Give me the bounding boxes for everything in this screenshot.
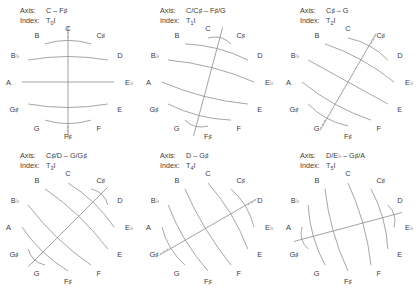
panel-t0i-figure: CC♯DE♭EFF♯GG♯AB♭B xyxy=(0,26,140,144)
pitch-class-label-G♯: G♯ xyxy=(290,105,300,114)
pitch-class-label-F♯: F♯ xyxy=(64,132,73,141)
pitch-class-label-C♯: C♯ xyxy=(377,31,386,40)
pitch-class-label-G♯: G♯ xyxy=(10,250,20,259)
panel-t4i-axis-value: D – G♯ xyxy=(186,151,208,161)
pitch-class-label-B: B xyxy=(35,31,40,40)
axis-label: Axis: xyxy=(300,6,326,16)
pitch-class-label-B: B xyxy=(175,31,180,40)
inversion-arc-G-A xyxy=(162,227,185,265)
pitch-class-label-B♭: B♭ xyxy=(11,196,19,205)
pitch-class-label-F: F xyxy=(377,269,382,278)
panel-t3i-axis-row: Axis:C♯/D – G/G♯ xyxy=(20,151,87,161)
pitch-class-label-G♯: G♯ xyxy=(150,250,160,259)
panel-t1i-figure: CC♯DE♭EFF♯GG♯AB♭B xyxy=(140,26,280,144)
pitch-class-label-D: D xyxy=(117,51,122,60)
pitch-class-label-D: D xyxy=(117,196,122,205)
pitch-class-label-F: F xyxy=(237,124,242,133)
pitch-class-label-E: E xyxy=(397,105,402,114)
index-suffix: I xyxy=(193,161,195,170)
index-suffix: I xyxy=(333,161,335,170)
index-subscript: 0 xyxy=(50,20,53,26)
pitch-class-label-A: A xyxy=(286,78,291,87)
pitch-class-label-F: F xyxy=(237,269,242,278)
pitch-class-label-G♯: G♯ xyxy=(290,250,300,259)
pitch-class-label-B: B xyxy=(175,176,180,185)
pitch-class-label-G: G xyxy=(314,124,320,133)
pitch-class-label-E♭: E♭ xyxy=(125,223,133,232)
pitch-class-label-F♯: F♯ xyxy=(64,277,73,286)
panel-t2i: Axis:C♯ – GIndex:T2ICC♯DE♭EFF♯GG♯AB♭B xyxy=(280,0,405,145)
panel-t5i-index-value: T5I xyxy=(326,161,335,171)
axis-label: Axis: xyxy=(20,6,46,16)
pitch-class-label-E♭: E♭ xyxy=(405,78,413,87)
pitch-class-label-C: C xyxy=(65,169,71,178)
pitch-class-label-C♯: C♯ xyxy=(97,31,106,40)
pitch-class-label-G: G xyxy=(314,269,320,278)
index-label: Index: xyxy=(20,16,46,26)
panel-t5i-axis-row: Axis:D/E♭ – G♯/A xyxy=(300,151,365,161)
pitch-class-label-B: B xyxy=(315,31,320,40)
pitch-class-label-F♯: F♯ xyxy=(344,132,353,141)
panel-t0i-index-row: Index:T0I xyxy=(20,16,67,26)
index-suffix: I xyxy=(53,16,55,25)
pitch-class-label-G♯: G♯ xyxy=(10,105,20,114)
pitch-class-label-B♭: B♭ xyxy=(291,196,299,205)
pitch-class-label-E♭: E♭ xyxy=(265,78,273,87)
panel-t1i-index-row: Index:T1I xyxy=(160,16,226,26)
pitch-class-label-C: C xyxy=(205,169,211,178)
pitch-class-label-E: E xyxy=(117,250,122,259)
panel-t3i-index-value: T3I xyxy=(46,161,55,171)
axis-label: Axis: xyxy=(300,151,326,161)
panel-t4i-figure: CC♯DE♭EFF♯GG♯AB♭B xyxy=(140,171,280,289)
pitch-class-label-C♯: C♯ xyxy=(237,176,246,185)
pitch-class-label-F♯: F♯ xyxy=(344,277,353,286)
panel-t4i-index-value: T4I xyxy=(186,161,195,171)
pitch-class-label-C♯: C♯ xyxy=(97,176,106,185)
panel-t5i-axis-value: D/E♭ – G♯/A xyxy=(326,151,365,161)
pitch-class-label-A: A xyxy=(286,223,291,232)
pitch-class-label-E: E xyxy=(117,105,122,114)
panel-t1i-axis-row: Axis:C/C♯ – F♯/G xyxy=(160,6,226,16)
panel-t1i-index-value: T1I xyxy=(186,16,195,26)
pitch-class-label-F: F xyxy=(97,124,102,133)
pitch-class-label-B♭: B♭ xyxy=(11,51,19,60)
symmetry-axis xyxy=(160,199,257,255)
symmetry-axis xyxy=(28,187,107,266)
panel-t1i-axis-value: C/C♯ – F♯/G xyxy=(186,6,226,16)
panel-t0i-axis-value: C – F♯ xyxy=(46,6,67,16)
panel-t2i-figure: CC♯DE♭EFF♯GG♯AB♭B xyxy=(280,26,418,144)
pitch-class-label-E♭: E♭ xyxy=(405,223,413,232)
index-label: Index: xyxy=(300,161,326,171)
pitch-class-label-C♯: C♯ xyxy=(377,176,386,185)
index-subscript: 3 xyxy=(50,165,53,171)
panel-t4i-index-row: Index:T4I xyxy=(160,161,208,171)
panel-t4i-header: Axis:D – G♯Index:T4I xyxy=(160,151,208,171)
inversion-arc-E-B♭ xyxy=(308,60,388,104)
inversion-arc-F♯-B♭ xyxy=(168,205,208,271)
pitch-class-label-G: G xyxy=(174,124,180,133)
pitch-class-label-C: C xyxy=(345,24,351,33)
panel-t5i-index-row: Index:T5I xyxy=(300,161,365,171)
index-suffix: I xyxy=(193,16,195,25)
symmetry-axis xyxy=(194,28,223,136)
panel-t3i-index-row: Index:T3I xyxy=(20,161,87,171)
axis-label: Axis: xyxy=(160,6,186,16)
index-label: Index: xyxy=(20,161,46,171)
pitch-class-label-E: E xyxy=(257,250,262,259)
panel-t4i: Axis:D – G♯Index:T4ICC♯DE♭EFF♯GG♯AB♭B xyxy=(140,145,280,291)
index-label: Index: xyxy=(160,161,186,171)
panel-t1i-header: Axis:C/C♯ – F♯/GIndex:T1I xyxy=(160,6,226,26)
panel-t2i-axis-row: Axis:C♯ – G xyxy=(300,6,348,16)
panel-t5i: Axis:D/E♭ – G♯/AIndex:T5ICC♯DE♭EFF♯GG♯AB… xyxy=(280,145,405,291)
panel-t0i: Axis:C – F♯Index:T0ICC♯DE♭EFF♯GG♯AB♭B xyxy=(0,0,140,145)
pitch-class-label-D: D xyxy=(397,51,402,60)
panel-t3i-header: Axis:C♯/D – G/G♯Index:T3I xyxy=(20,151,87,171)
pitch-class-label-B♭: B♭ xyxy=(151,51,159,60)
panel-t3i: Axis:C♯/D – G/G♯Index:T3ICC♯DE♭EFF♯GG♯AB… xyxy=(0,145,140,291)
panel-t5i-figure: CC♯DE♭EFF♯GG♯AB♭B xyxy=(280,171,418,289)
inversion-arc-E♭-C♯ xyxy=(231,189,254,227)
panel-t5i-header: Axis:D/E♭ – G♯/AIndex:T5I xyxy=(300,151,365,171)
panel-t0i-axis-row: Axis:C – F♯ xyxy=(20,6,67,16)
index-label: Index: xyxy=(160,16,186,26)
